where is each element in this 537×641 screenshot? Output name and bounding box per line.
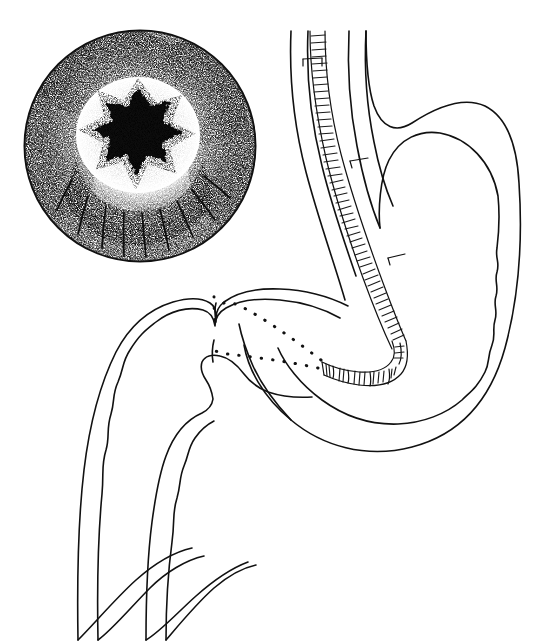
medical-illustration-figure: Endoscopic examination of the stomach an…	[0, 0, 537, 641]
illustration-canvas	[0, 0, 537, 641]
